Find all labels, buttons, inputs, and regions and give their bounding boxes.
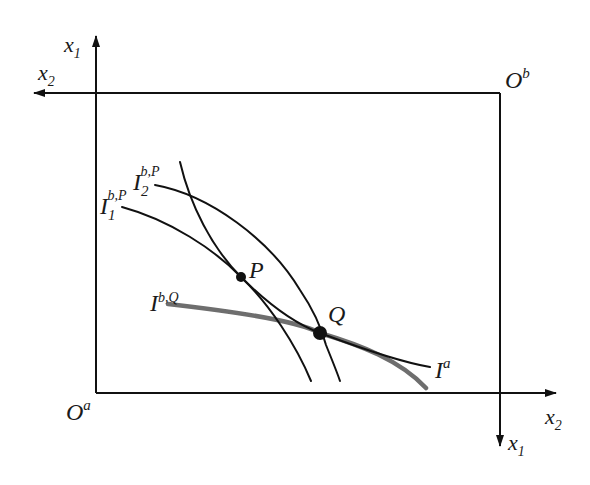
label-i2-bp: I2b,P (132, 164, 160, 199)
edgeworth-box-diagram: x1 x2 Ob Oa x2 x1 I1b,P I2b,P Ib,Q Ia P … (0, 0, 590, 485)
label-i-bq: Ib,Q (149, 290, 179, 316)
label-i1-bp: I1b,P (99, 188, 127, 223)
label-point-p: P (248, 257, 264, 283)
label-b-x1: x1 (507, 430, 525, 459)
edgeworth-box (34, 36, 556, 446)
point-q-marker (313, 326, 327, 340)
label-i-a: Ia (434, 355, 451, 383)
label-b-x2: x2 (37, 60, 55, 89)
indifference-curve-b-q (168, 304, 426, 388)
point-p-marker (236, 272, 246, 282)
label-a-x2: x2 (544, 404, 562, 433)
indifference-curve-a (180, 162, 430, 367)
label-point-q: Q (328, 301, 345, 327)
label-origin-a: Oa (66, 397, 91, 425)
label-a-x1: x1 (63, 32, 81, 61)
label-origin-b: Ob (505, 65, 530, 93)
